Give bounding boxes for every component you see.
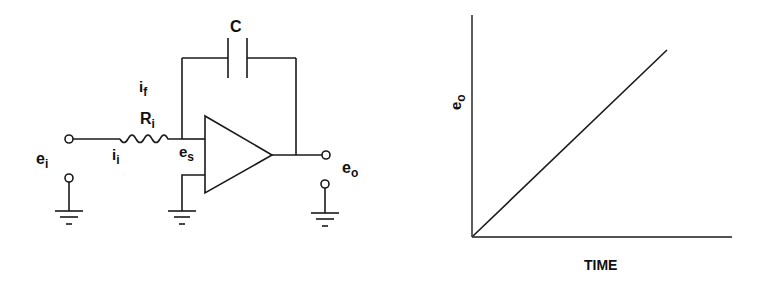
integrator-figure: C if Ri ii ei es eo eo TIME	[0, 0, 765, 286]
ground-icon	[55, 211, 83, 224]
resistor-label: Ri	[140, 110, 155, 131]
input-voltage-label: ei	[36, 150, 48, 171]
op-amp-icon	[205, 116, 272, 193]
y-axis-label: eo	[447, 94, 468, 110]
input-terminal	[65, 135, 73, 143]
x-axis-label: TIME	[584, 257, 617, 273]
resistor-icon	[120, 135, 182, 143]
summing-voltage-label: es	[179, 143, 194, 164]
capacitor-label: C	[230, 18, 242, 35]
circuit-diagram: C if Ri ii ei es eo	[36, 18, 358, 226]
ramp-line	[473, 50, 667, 236]
output-ground-terminal	[321, 180, 329, 188]
output-vs-time-chart: eo TIME	[447, 15, 732, 273]
input-current-label: ii	[112, 146, 120, 167]
input-ground-terminal	[65, 174, 73, 182]
capacitor-icon	[228, 38, 247, 78]
output-voltage-label: eo	[342, 159, 358, 180]
output-terminal	[322, 151, 330, 159]
non-inverting-input-wire	[182, 175, 205, 211]
ground-icon	[168, 211, 196, 224]
feedback-current-label: if	[139, 78, 148, 99]
ground-icon	[311, 213, 339, 226]
